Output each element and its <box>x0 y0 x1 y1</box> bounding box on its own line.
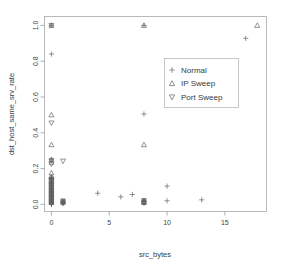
data-point-normal <box>130 192 135 197</box>
x-tick-label: 5 <box>107 219 111 226</box>
small-overplot-cluster <box>61 199 66 204</box>
data-point-normal <box>141 111 146 116</box>
y-tick-label: 0.2 <box>32 164 39 174</box>
data-point-normal <box>49 51 54 56</box>
data-point-normal <box>199 197 204 202</box>
chart-legend: NormalIP SweepPort Sweep <box>165 59 239 108</box>
x-tick-label: 15 <box>221 219 229 226</box>
data-point-normal <box>118 194 123 199</box>
data-point-ip-sweep <box>141 142 146 147</box>
small-overplot-cluster <box>142 199 147 205</box>
legend-label-ip-sweep: IP Sweep <box>181 79 216 88</box>
data-point-normal <box>164 183 169 188</box>
data-point-ip-sweep <box>255 23 260 28</box>
scatter-plot-figure: 051015 0.00.20.40.60.81.0 NormalIP Sweep… <box>0 0 290 273</box>
y-tick-label: 0.0 <box>32 199 39 209</box>
x-axis-ticks: 051015 <box>49 212 228 226</box>
x-axis-title: src_bytes <box>139 250 171 259</box>
data-point-port-sweep <box>49 121 54 126</box>
data-point-ip-sweep <box>49 142 54 147</box>
plot-canvas: 051015 0.00.20.40.60.81.0 NormalIP Sweep… <box>0 0 290 273</box>
y-tick-label: 0.4 <box>32 128 39 138</box>
data-point-normal <box>95 191 100 196</box>
x-tick-label: 0 <box>49 219 53 226</box>
y-tick-label: 0.6 <box>32 92 39 102</box>
dense-overplot-cluster <box>49 175 54 207</box>
legend-label-port-sweep: Port Sweep <box>181 93 223 102</box>
legend-label-normal: Normal <box>181 66 207 75</box>
data-point-port-sweep <box>61 159 66 164</box>
data-point-ip-sweep <box>49 112 54 117</box>
plot-frame <box>45 17 267 212</box>
data-point-normal <box>243 36 248 41</box>
data-points-layer <box>49 23 260 207</box>
y-axis-title: dst_host_same_srv_rate <box>7 73 16 155</box>
y-tick-label: 1.0 <box>32 20 39 30</box>
x-tick-label: 10 <box>163 219 171 226</box>
data-point-normal <box>164 198 169 203</box>
y-axis-ticks: 0.00.20.40.60.81.0 <box>32 20 45 209</box>
y-tick-label: 0.8 <box>32 56 39 66</box>
